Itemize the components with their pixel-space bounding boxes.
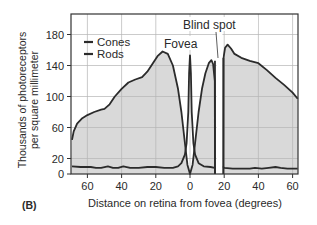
y-tick-label: 0 xyxy=(58,168,64,180)
x-tick-label: 20 xyxy=(150,180,162,192)
y-tick-label: 60 xyxy=(52,122,64,134)
x-tick-label: 20 xyxy=(218,180,230,192)
x-tick-label: 40 xyxy=(252,180,264,192)
blind-spot-gap xyxy=(217,15,223,174)
blind-spot-label: Blind spot xyxy=(183,18,236,32)
x-axis-title: Distance on retina from fovea (degrees) xyxy=(88,197,282,209)
x-tick-label: 60 xyxy=(286,180,298,192)
x-axis: 6040200204060 xyxy=(81,174,298,192)
x-tick-label: 0 xyxy=(187,180,193,192)
photoreceptor-density-chart: 02060100140180 6040200204060 Cones Rods … xyxy=(0,0,317,225)
y-tick-label: 180 xyxy=(46,29,64,41)
fovea-label: Fovea xyxy=(164,37,198,51)
x-tick-label: 40 xyxy=(115,180,127,192)
panel-label: (B) xyxy=(22,199,37,211)
x-tick-label: 60 xyxy=(81,180,93,192)
y-tick-label: 100 xyxy=(46,91,64,103)
legend-label-rods: Rods xyxy=(97,48,124,60)
y-tick-label: 140 xyxy=(46,60,64,72)
y-tick-label: 20 xyxy=(52,153,64,165)
y-axis-title-line1: Thousands of photoreceptors xyxy=(16,32,28,169)
legend-label-cones: Cones xyxy=(97,36,130,48)
y-axis: 02060100140180 xyxy=(46,29,71,181)
y-axis-title-line2: per square millimeter xyxy=(28,50,40,149)
